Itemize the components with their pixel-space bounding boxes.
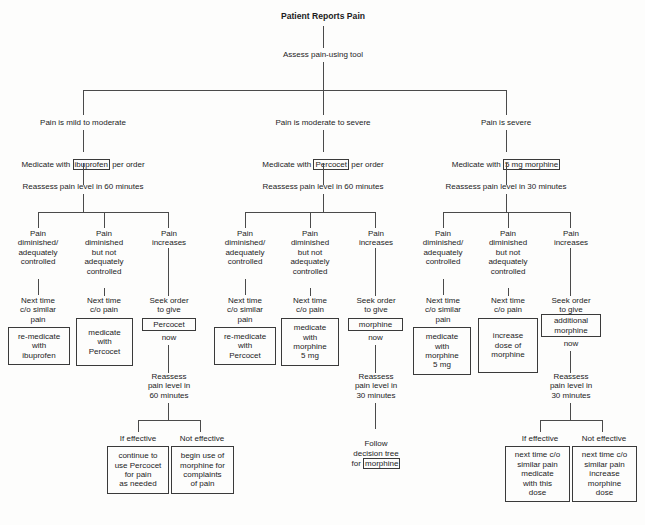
branch-1-drug-box: ibuprofen (73, 159, 110, 170)
branch-1-outcome-3-connector-3 (168, 403, 169, 420)
branch-1-outcome-3-drug-box: Percocet (142, 318, 196, 331)
branch-2-outcome-3-connector (375, 248, 376, 296)
branch-1-outcome-1-label: Pain diminished/ adequately controlled (3, 229, 73, 267)
branch-1-effective-split-left (138, 420, 139, 432)
branch-1-not-effective-box: begin use of morphine for complaints of … (171, 446, 234, 494)
branch-3-medicate-pre: Medicate with (452, 160, 503, 169)
branch-1-outcome-3-box-after: now (142, 333, 196, 342)
branch-2-severity: Pain is moderate to severe (243, 118, 403, 127)
branch-1-medicate-pre: Medicate with (21, 160, 72, 169)
branch-3-outcome-3-box-after: now (541, 339, 601, 348)
branch-1-outcome-1-action: Next time c/o similar pain (3, 296, 73, 324)
branch-2-follow-decision-tree: Follow decision tree for morphine (333, 430, 419, 469)
branch-2-drug-box: Percocet (313, 159, 349, 170)
branch-1-severity: Pain is mild to moderate (8, 118, 158, 127)
branch-3-split (443, 212, 571, 213)
branch-1-outcome-2-action: Next time c/o pain (70, 296, 138, 315)
branch-1-effective-split-right (200, 420, 201, 432)
branch-3-effective-split (540, 420, 603, 421)
branch-1-outcome-3-connector (168, 248, 169, 296)
branch-1-outcome-3-reassess: Reassess pain level in 60 minutes (130, 372, 208, 400)
branch-2-outcome-1-label: Pain diminished/ adequately controlled (210, 229, 280, 267)
branch-3-outcome-3-label: Pain increases (538, 229, 604, 248)
branch-3-connector-c (506, 194, 507, 212)
branch-1-if-effective-box: continue to use Percocet for pain as nee… (107, 446, 169, 494)
branch-1-outcome-1-connector (38, 279, 39, 295)
branch-3-connector-a (506, 130, 507, 152)
branch-3-outcome-3-action: Seek order to give (538, 296, 604, 315)
branch-3-split-to-c1 (443, 212, 444, 228)
branch-1-outcome-2-label: Pain diminished but not adequately contr… (70, 229, 138, 276)
branch-2-medicate-post: per order (349, 160, 384, 169)
connector-title-to-assess (323, 26, 324, 48)
branch-1-connector-c (83, 194, 84, 212)
branch-2-split-to-c3 (375, 212, 376, 228)
branch-2-outcome-3-reassess: Reassess pain level in 30 minutes (337, 372, 415, 400)
branch-2-outcome-3-drug-box: morphine (348, 318, 403, 331)
branch-3-outcome-2-action: Next time c/o pain (474, 296, 542, 315)
branch-1-outcome-3-label: Pain increases (136, 229, 202, 248)
branch-3-if-effective-box: next time c/o similar pain medicate with… (505, 446, 570, 502)
branch-2-outcome-2-box: medicate with morphine 5 mg (281, 318, 339, 366)
branch-3-outcome-1-connector (443, 279, 444, 295)
branch-3-outcome-2-connector (508, 288, 509, 296)
connector-root-split (83, 90, 506, 91)
branch-3-not-effective-label: Not effective (572, 434, 636, 443)
branch-3-drug-box: 5 mg morphine (503, 159, 560, 170)
branch-3-outcome-3-connector-2 (570, 351, 571, 373)
branch-1-reassess: Reassess pain level in 60 minutes (3, 182, 163, 191)
branch-3-outcome-2-box: increase dose of morphine (478, 318, 538, 373)
connector-assess-down (323, 62, 324, 90)
branch-3-if-effective-label: If effective (509, 434, 571, 443)
page-title: Patient Reports Pain (228, 12, 418, 21)
branch-2-outcome-2-action: Next time c/o pain (276, 296, 344, 315)
branch-3-outcome-1-label: Pain diminished/ adequately controlled (408, 229, 478, 267)
branch-3-effective-split-right (602, 420, 603, 432)
branch-2-outcome-3-action: Seek order to give (343, 296, 409, 315)
branch-2-follow-drug-box: morphine (363, 458, 400, 469)
branch-2-outcome-3-connector-2 (375, 345, 376, 373)
branch-2-split-to-c2 (310, 212, 311, 228)
branch-1-outcome-2-box: medicate with Percocet (76, 318, 133, 366)
branch-3-outcome-3-drug-box: additional morphine (541, 314, 601, 337)
branch-2-medicate-pre: Medicate with (262, 160, 313, 169)
branch-1-effective-split (138, 420, 201, 421)
branch-1-medicate-post: per order (110, 160, 145, 169)
branch-1-split-to-c1 (38, 212, 39, 228)
branch-1-not-effective-label: Not effective (170, 434, 234, 443)
connector-root-to-b3 (506, 90, 507, 115)
branch-2-outcome-1-box: re-medicate with Percocet (214, 327, 276, 365)
branch-1-outcome-3-action: Seek order to give (136, 296, 202, 315)
branch-2-connector-a (323, 130, 324, 152)
branch-3-outcome-3-connector (570, 248, 571, 296)
pain-management-decision-tree: Patient Reports Pain Assess pain-using t… (0, 0, 645, 525)
branch-1-connector-a (83, 130, 84, 152)
branch-3-split-to-c2 (508, 212, 509, 228)
branch-2-outcome-2-label: Pain diminished but not adequately contr… (276, 229, 344, 276)
branch-3-split-to-c3 (570, 212, 571, 228)
branch-2-outcome-1-connector (245, 279, 246, 295)
branch-2-outcome-3-connector-3 (375, 403, 376, 429)
branch-3-outcome-1-action: Next time c/o similar pain (408, 296, 478, 324)
branch-3-reassess: Reassess pain level in 30 minutes (426, 182, 586, 191)
branch-2-outcome-3-label: Pain increases (343, 229, 409, 248)
branch-1-outcome-2-connector (104, 288, 105, 296)
branch-2-reassess: Reassess pain level in 60 minutes (243, 182, 403, 191)
branch-2-outcome-3-box-after: now (348, 333, 403, 342)
branch-2-outcome-2-connector (310, 288, 311, 296)
branch-3-outcome-2-label: Pain diminished but not adequately contr… (474, 229, 542, 276)
assess-step: Assess pain-using tool (243, 50, 403, 59)
branch-1-split-to-c2 (104, 212, 105, 228)
branch-3-not-effective-box: next time c/o similar pain increase morp… (572, 446, 637, 502)
branch-2-connector-c (323, 194, 324, 212)
branch-3-outcome-3-connector-3 (570, 403, 571, 420)
connector-root-to-b1 (83, 90, 84, 115)
branch-3-effective-split-left (540, 420, 541, 432)
branch-3-outcome-3-reassess: Reassess pain level in 30 minutes (532, 372, 610, 400)
branch-1-if-effective-label: If effective (107, 434, 169, 443)
branch-3-severity: Pain is severe (446, 118, 566, 127)
branch-1-outcome-3-connector-2 (168, 345, 169, 373)
branch-2-split-to-c1 (245, 212, 246, 228)
branch-2-outcome-1-action: Next time c/o similar pain (210, 296, 280, 324)
connector-root-to-b2 (323, 90, 324, 115)
